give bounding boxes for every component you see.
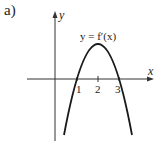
tick-label-3: 3 (115, 83, 121, 95)
curve-label: y = f′(x) (80, 30, 116, 43)
x-axis-label: x (147, 64, 154, 78)
tick-label-2: 2 (95, 83, 101, 95)
y-axis-arrow-icon (53, 11, 58, 18)
tick-label-1: 1 (76, 83, 82, 95)
y-axis-label: y (58, 8, 65, 22)
derivative-graph: y x y = f′(x) 1 2 3 (0, 0, 166, 146)
